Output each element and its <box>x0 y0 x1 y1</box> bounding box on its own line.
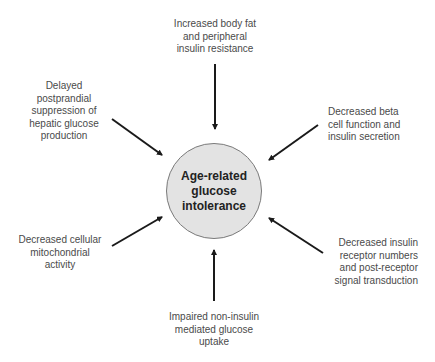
arrow-bottom-right <box>269 218 323 253</box>
factor-line: Delayed <box>22 80 106 93</box>
arrow-top-left <box>112 119 162 155</box>
factor-line: and post-receptor <box>324 262 418 275</box>
center-node-label: Age-related glucose intolerance <box>181 169 247 214</box>
factor-line: insulin secretion <box>328 131 412 144</box>
factor-line: and peripheral <box>166 31 264 44</box>
factor-line: Impaired non-insulin <box>164 311 264 324</box>
factor-line: receptor numbers <box>324 250 418 263</box>
factor-line: cell function and <box>328 119 412 132</box>
factor-line: hepatic glucose <box>22 118 106 131</box>
center-line: glucose <box>181 184 247 199</box>
clipped-caption <box>58 356 378 362</box>
factor-top-right: Decreased beta cell function and insulin… <box>328 106 412 144</box>
factor-line: suppression of <box>22 105 106 118</box>
factor-line: insulin resistance <box>166 43 264 56</box>
factor-bottom-right: Decreased insulin receptor numbers and p… <box>324 237 418 287</box>
factor-line: production <box>22 130 106 143</box>
factor-line: mediated glucose <box>164 324 264 337</box>
factor-line: signal transduction <box>324 275 418 288</box>
factor-line: Decreased beta <box>328 106 412 119</box>
factor-line: uptake <box>164 336 264 349</box>
factor-line: Decreased cellular <box>12 234 108 247</box>
factor-line: Increased body fat <box>166 18 264 31</box>
factor-top: Increased body fat and peripheral insuli… <box>166 18 264 56</box>
factor-bottom: Impaired non-insulin mediated glucose up… <box>164 311 264 349</box>
arrow-top-right <box>269 125 318 160</box>
factor-line: activity <box>12 259 108 272</box>
center-node: Age-related glucose intolerance <box>166 143 262 239</box>
factor-bottom-left: Decreased cellular mitochondrial activit… <box>12 234 108 272</box>
factor-line: postprandial <box>22 93 106 106</box>
center-line: Age-related <box>181 169 247 184</box>
center-line: intolerance <box>181 199 247 214</box>
arrow-bottom-left <box>112 217 162 246</box>
factor-line: Decreased insulin <box>324 237 418 250</box>
factor-top-left: Delayed postprandial suppression of hepa… <box>22 80 106 143</box>
factor-line: mitochondrial <box>12 247 108 260</box>
